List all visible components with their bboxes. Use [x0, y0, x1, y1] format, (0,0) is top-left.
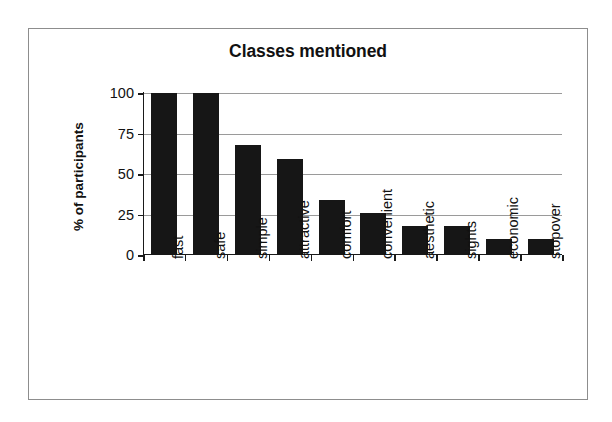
- y-tick-label: 75: [118, 126, 134, 142]
- x-label-attractive: attractive: [296, 200, 312, 259]
- x-label-safe: safe: [212, 232, 228, 259]
- x-label-sights: sights: [463, 221, 479, 259]
- x-label-aesthetic: aesthetic: [421, 201, 437, 259]
- y-tick-label: 100: [110, 85, 134, 101]
- figure-frame: Classes mentioned % of participants 0255…: [28, 28, 588, 400]
- bar-fast: [151, 93, 177, 255]
- y-tick-label: 25: [118, 207, 134, 223]
- x-label-economic: economic: [505, 197, 521, 259]
- x-axis-labels: fastsafesimpleattractivecomfortconvenien…: [143, 259, 562, 379]
- y-axis-title: % of participants: [71, 87, 86, 267]
- x-label-convenient: convenient: [379, 189, 395, 259]
- y-tick-label: 0: [126, 247, 134, 263]
- chart-title: Classes mentioned: [29, 41, 587, 62]
- x-label-fast: fast: [170, 236, 186, 259]
- x-label-comfort: comfort: [338, 211, 354, 259]
- x-label-stopover: stopover: [547, 203, 563, 259]
- y-tick-label: 50: [118, 166, 134, 182]
- x-label-simple: simple: [254, 217, 270, 259]
